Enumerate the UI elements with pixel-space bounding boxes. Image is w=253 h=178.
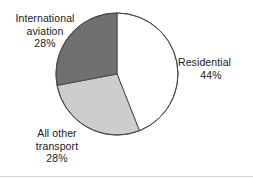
slice-label-line-1: Residential (178, 56, 252, 69)
slice-label-line-1: International (2, 12, 88, 25)
slice-label-line-1: All other (14, 127, 100, 140)
figure-bottom-rule (0, 176, 253, 177)
slice-value-all-other-transport: 28% (14, 152, 100, 165)
pie-chart-figure: International aviation 28% Residential 4… (0, 0, 253, 178)
slice-label-line-2: transport (14, 140, 100, 153)
slice-label-international-aviation: International aviation 28% (2, 12, 88, 50)
slice-value-international-aviation: 28% (2, 37, 88, 50)
slice-label-residential: Residential 44% (178, 56, 252, 81)
slice-label-all-other-transport: All other transport 28% (14, 127, 100, 165)
slice-label-line-2: aviation (2, 25, 88, 38)
slice-value-residential: 44% (178, 69, 244, 82)
